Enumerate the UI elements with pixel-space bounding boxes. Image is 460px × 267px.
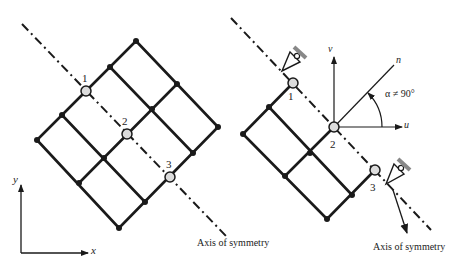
right-diagram: v u n α ≠ 90° 1 2 3 Axi: [231, 18, 445, 252]
symmetry-node-1: 1: [81, 72, 91, 96]
svg-text:3: 3: [370, 181, 376, 193]
n-axis-label: n: [396, 54, 401, 65]
roller-support-icon-1: [282, 47, 306, 71]
axis-of-symmetry-label-left: Axis of symmetry: [197, 237, 269, 248]
symmetry-node-3: 3: [165, 158, 175, 182]
angle-arc: [368, 93, 382, 127]
y-axis-label: y: [12, 173, 18, 185]
reaction-arrow: [393, 190, 407, 233]
u-axis-label: u: [404, 119, 409, 130]
coordinate-axes: [21, 185, 88, 253]
svg-text:2: 2: [330, 138, 336, 150]
symmetry-node-2-right: 2: [329, 122, 339, 150]
axis-of-symmetry-label-right: Axis of symmetry: [373, 241, 445, 252]
roller-support-icon-3: [386, 159, 410, 184]
symmetry-diagram: 1 2 3 y x Axis of symmetry: [0, 0, 460, 267]
x-axis-label: x: [90, 244, 96, 256]
svg-text:2: 2: [122, 115, 128, 127]
svg-text:1: 1: [288, 90, 294, 102]
svg-text:3: 3: [166, 158, 172, 170]
angle-label: α ≠ 90°: [385, 88, 415, 99]
symmetry-node-3-right: 3: [370, 165, 380, 193]
symmetry-node-2: 2: [122, 115, 132, 139]
symmetry-node-1-right: 1: [288, 78, 298, 102]
left-diagram: 1 2 3 y x Axis of symmetry: [12, 24, 269, 256]
svg-text:1: 1: [82, 72, 88, 84]
v-axis-label: v: [328, 43, 333, 54]
